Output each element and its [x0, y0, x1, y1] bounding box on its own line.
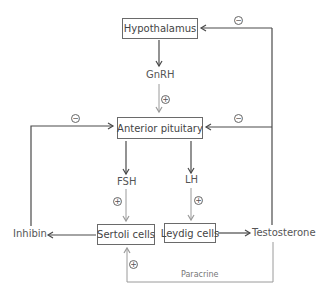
arrow-inhibin-feedback [31, 126, 113, 226]
label-lh: LH [185, 175, 198, 185]
node-sertoli-cells: Sertoli cells [97, 224, 155, 245]
node-leydig-cells: Leydig cells [164, 223, 216, 243]
diagram-connectors [0, 0, 324, 300]
plus-sign-fsh: + [113, 197, 122, 206]
label-inhibin: Inhibin [13, 229, 47, 239]
label-testosterone: Testosterone [252, 228, 316, 238]
plus-sign-gnrh: + [161, 95, 170, 104]
node-anterior-pituitary: Anterior pituitary [117, 117, 203, 139]
label-paracrine: Paracrine [181, 271, 218, 279]
node-hypothalamus: Hypothalamus [122, 18, 198, 39]
label-gnrh: GnRH [146, 70, 175, 80]
minus-sign-inhibin: − [71, 114, 80, 123]
minus-sign-testosterone-pituitary: − [234, 114, 243, 123]
minus-sign-testosterone-hypothalamus: − [234, 16, 243, 25]
label-fsh: FSH [117, 177, 136, 187]
plus-sign-paracrine: + [129, 260, 138, 269]
plus-sign-lh: + [194, 196, 203, 205]
